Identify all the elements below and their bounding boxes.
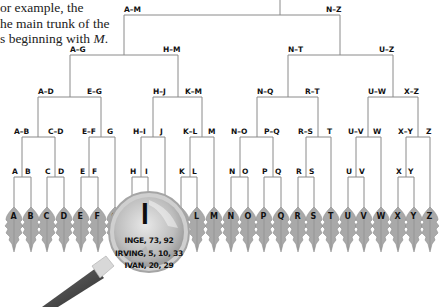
node-label: U–Z [379, 45, 395, 54]
svg-text:W: W [377, 212, 386, 221]
svg-text:E: E [78, 212, 83, 221]
svg-text:D: D [61, 212, 68, 221]
node-label: H–I [133, 127, 146, 136]
node-label: K–M [185, 87, 202, 96]
level5-labels: A B C D E F H I K L N O P Q R S U V X Y [12, 167, 414, 176]
index-tree-diagram: A–M N–Z A–G H–M N–T U–Z A–D E–G H–J K–M … [0, 0, 439, 307]
leaf-row: A B C D E F G H I J K L M N O P Q R S T … [5, 200, 439, 252]
node-label: N [229, 167, 235, 176]
magnifier-letter: I [141, 198, 149, 231]
index-entry: INGE, 73, 92 [124, 236, 173, 245]
node-label: B [25, 167, 31, 176]
leaf-icon: E [72, 200, 90, 252]
leaf-icon: L [188, 200, 206, 252]
leaf-icon: D [55, 200, 73, 252]
level3-labels: A–D E–G H–J K–M N–Q R–T U–W X–Z [38, 87, 420, 96]
node-label: Q [275, 167, 281, 176]
node-label: X–Z [404, 87, 420, 96]
node-label: Z [426, 127, 432, 136]
node-label: E–F [82, 127, 96, 136]
leaf-icon: T [322, 200, 340, 252]
svg-text:Z: Z [427, 212, 433, 221]
leaf-icon: Y [405, 200, 423, 252]
svg-text:O: O [245, 212, 252, 221]
tree-branches [14, 0, 430, 200]
node-label: U [346, 167, 352, 176]
node-label: P [262, 167, 268, 176]
node-label: A–G [70, 45, 86, 54]
node-label: X–Y [398, 127, 414, 136]
svg-text:A: A [11, 212, 18, 221]
node-label: R–S [298, 127, 313, 136]
node-label: N–O [231, 127, 247, 136]
leaf-icon: F [89, 200, 107, 252]
node-label: X [396, 167, 402, 176]
node-label: T [327, 127, 333, 136]
node-label: J [159, 127, 163, 136]
svg-text:P: P [261, 212, 267, 221]
node-label: A–M [124, 5, 141, 14]
node-label: K [179, 167, 186, 176]
node-label: H [130, 167, 136, 176]
index-entry: IRVING, 5, 10, 33 [115, 249, 183, 258]
node-label: R–T [305, 87, 321, 96]
leaf-icon: Z [421, 200, 439, 252]
svg-text:L: L [194, 212, 199, 221]
node-label: A–B [14, 127, 30, 136]
node-label: A [12, 167, 18, 176]
node-label: N–Z [326, 5, 342, 14]
node-label: A–D [38, 87, 54, 96]
svg-text:X: X [395, 212, 402, 221]
svg-text:R: R [295, 212, 301, 221]
svg-text:Q: Q [278, 212, 285, 221]
node-label: L [192, 167, 197, 176]
node-label: O [242, 167, 248, 176]
node-label: D [58, 167, 64, 176]
node-label: Y [407, 167, 414, 176]
leaf-icon: Q [272, 200, 290, 252]
node-label: W [373, 127, 382, 136]
leaf-icon: A [5, 200, 23, 252]
leaf-icon: C [38, 200, 56, 252]
svg-text:N: N [228, 212, 235, 221]
node-label: U–V [348, 127, 364, 136]
svg-text:Y: Y [410, 212, 417, 221]
leaf-icon: X [389, 200, 407, 252]
node-label: R [296, 167, 302, 176]
svg-text:S: S [311, 212, 317, 221]
node-label: F [92, 167, 97, 176]
node-label: C [45, 167, 51, 176]
node-label: V [359, 167, 365, 176]
leaf-icon: U [339, 200, 357, 252]
leaf-icon: R [289, 200, 307, 252]
level4-labels: A–B C–D E–F G H–I J K–L M N–O P–Q R–S T … [14, 127, 432, 136]
node-label: G [107, 127, 113, 136]
node-label: S [309, 167, 314, 176]
node-label: H–M [163, 45, 181, 54]
svg-text:M: M [210, 212, 218, 221]
svg-text:F: F [95, 212, 100, 221]
leaf-icon: V [355, 200, 373, 252]
svg-text:T: T [328, 212, 334, 221]
svg-text:B: B [28, 212, 34, 221]
leaf-icon: P [255, 200, 273, 252]
node-label: N–Q [257, 87, 273, 96]
svg-text:C: C [44, 212, 50, 221]
magnifier-handle [42, 268, 104, 307]
leaf-icon: W [372, 200, 390, 252]
svg-text:U: U [345, 212, 352, 221]
leaf-icon: N [222, 200, 240, 252]
node-label: P–Q [264, 127, 280, 136]
node-label: N–T [288, 45, 304, 54]
leaf-icon: B [22, 200, 40, 252]
leaf-icon: M [205, 200, 223, 252]
level1-labels: A–M N–Z [124, 5, 342, 14]
node-label: M [208, 127, 215, 136]
node-label: H–J [153, 87, 166, 96]
level2-labels: A–G H–M N–T U–Z [70, 45, 395, 54]
node-label: I [145, 167, 148, 176]
node-label: C–D [48, 127, 63, 136]
svg-text:V: V [361, 212, 368, 221]
index-entry: IVAN, 20, 29 [124, 261, 173, 270]
leaf-icon: O [239, 200, 257, 252]
